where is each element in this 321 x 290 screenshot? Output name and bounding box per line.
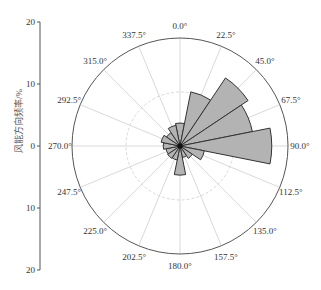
angle-label: 112.5° (279, 187, 303, 197)
angle-label: 292.5° (57, 95, 81, 105)
y-tick-label: 10 (26, 79, 36, 89)
y-axis-title: 风能方向频率/% (13, 88, 24, 153)
angle-label: 45.0° (255, 56, 275, 66)
angle-label: 0.0° (173, 21, 188, 31)
angle-label: 337.5° (122, 30, 146, 40)
angle-label: 247.5° (57, 187, 81, 197)
y-tick-label: 20 (26, 265, 36, 275)
angle-label: 202.5° (122, 252, 146, 262)
angle-label: 90.0° (290, 141, 310, 151)
y-tick-label: 0 (31, 141, 36, 151)
angle-label: 180.0° (168, 261, 192, 271)
center-dot (178, 144, 183, 149)
angle-label: 315.0° (83, 56, 107, 66)
angle-label: 225.0° (83, 226, 107, 236)
angle-label: 22.5° (216, 30, 236, 40)
angle-label: 135.0° (253, 226, 277, 236)
y-tick-label: 10 (26, 203, 36, 213)
angle-label: 157.5° (214, 252, 238, 262)
wind-rose-chart: 0.0°22.5°45.0°67.5°90.0°112.5°135.0°157.… (0, 0, 321, 290)
angle-label: 67.5° (281, 95, 301, 105)
angle-label: 270.0° (48, 141, 72, 151)
y-tick-label: 20 (26, 17, 36, 27)
